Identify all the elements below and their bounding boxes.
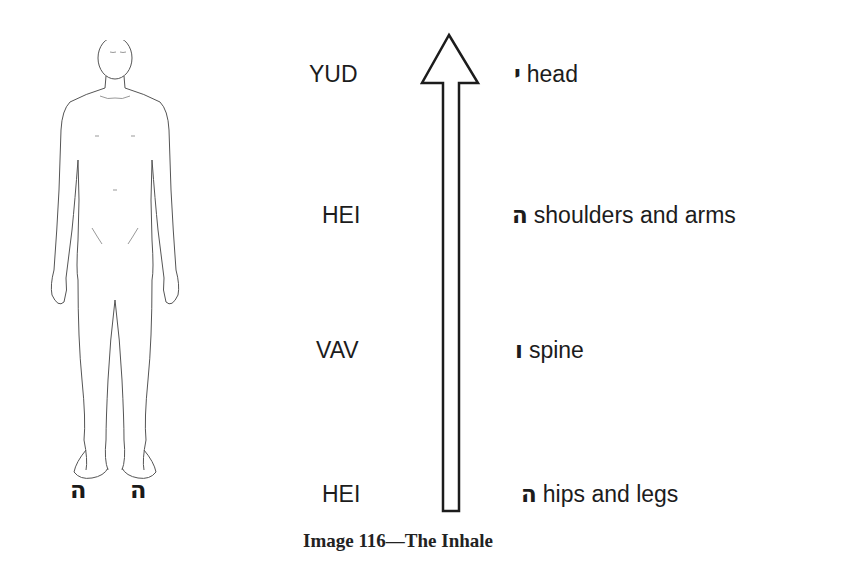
level-name-vav: VAV xyxy=(316,339,359,362)
body-part-spine: spine xyxy=(529,337,584,363)
level-name-hei-upper: HEI xyxy=(322,204,360,227)
inhale-figure: ה ה YUD HEI VAV HEI יhead הshoulders and… xyxy=(0,0,842,569)
figure-caption: Image 116—The Inhale xyxy=(303,530,493,552)
letter-hei: ה xyxy=(512,202,528,228)
desc-shoulders: הshoulders and arms xyxy=(512,204,736,227)
foot-letter-right: ה xyxy=(130,478,147,502)
desc-spine: וspine xyxy=(515,339,584,362)
body-part-hips: hips and legs xyxy=(543,481,679,507)
desc-head: יhead xyxy=(514,63,578,86)
level-name-yud: YUD xyxy=(309,63,358,86)
letter-hei: ה xyxy=(521,481,537,507)
letter-yud: י xyxy=(514,61,521,87)
body-part-shoulders: shoulders and arms xyxy=(534,202,736,228)
letter-vav: ו xyxy=(515,337,523,363)
body-part-head: head xyxy=(527,61,578,87)
foot-letter-left: ה xyxy=(70,478,87,502)
desc-hips: הhips and legs xyxy=(521,483,678,506)
human-body-icon xyxy=(40,40,190,490)
arrow-up-icon xyxy=(415,30,485,515)
level-name-hei-lower: HEI xyxy=(322,483,360,506)
